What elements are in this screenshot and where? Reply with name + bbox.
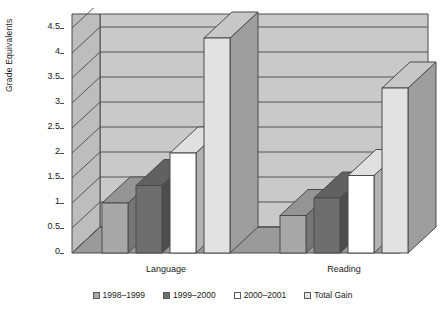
plot-svg [62,8,440,260]
y-tick-label-3: 3 [20,97,60,106]
bar-language-3-side [230,12,258,253]
bar-reading-3-front [382,88,408,253]
y-tick-label-4: 4 [20,47,60,56]
y-axis-ticks: 00.511.522.533.544.5 [20,0,60,309]
y-tick-label-1.5: 1.5 [20,172,60,181]
y-tick-label-3.5: 3.5 [20,72,60,81]
legend-swatch-icon-2 [234,292,241,299]
legend-label-1: 1999–2000 [173,290,216,300]
legend-item-0[interactable]: 1998–1999 [93,290,146,300]
y-tick-label-2: 2 [20,147,60,156]
legend-label-2: 2000–2001 [244,290,287,300]
bar-language-2-front [170,153,196,253]
x-axis-label-language: Language [116,264,216,274]
legend-swatch-icon-0 [93,292,100,299]
y-tick-label-2.5: 2.5 [20,122,60,131]
x-axis-label-reading: Reading [294,264,394,274]
bar-language-1-front [136,186,162,254]
plot-left-wall [72,14,100,253]
bar-reading-0-front [280,216,306,254]
bar-reading-2-front [348,176,374,254]
legend-swatch-icon-3 [304,292,311,299]
plot-area [62,8,440,260]
y-axis-title: Grade Equivalents [4,0,14,92]
legend-item-1[interactable]: 1999–2000 [163,290,216,300]
bar-reading-1-front [314,198,340,253]
bar-language-3-front [204,38,230,253]
chart-legend: 1998–19991999–20002000–2001Total Gain [0,285,445,305]
y-tick-label-1: 1 [20,197,60,206]
y-tick-label-0.5: 0.5 [20,222,60,231]
legend-label-0: 1998–1999 [103,290,146,300]
legend-item-2[interactable]: 2000–2001 [234,290,287,300]
bar-language-0-front [102,203,128,253]
y-tick-label-4.5: 4.5 [20,22,60,31]
bar-reading-3-side [408,62,436,253]
legend-item-3[interactable]: Total Gain [304,290,352,300]
legend-swatch-icon-1 [163,292,170,299]
legend-label-3: Total Gain [314,290,352,300]
chart-container: Grade Equivalents 00.511.522.533.544.5 L… [0,0,445,309]
y-tick-label-0: 0 [20,247,60,256]
